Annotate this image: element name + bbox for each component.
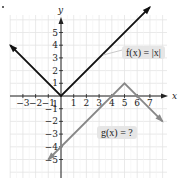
g-label-box: g(x) = ? (97, 126, 137, 139)
axes: xy−3−2−1123456754321−1−2−3−4−51 (10, 5, 177, 178)
y-tick-label: 4 (52, 40, 58, 50)
svg-text:1: 1 (52, 99, 58, 109)
y-axis-label: y (57, 5, 64, 15)
x-tick-label: 4 (109, 98, 115, 108)
f-label-box: f(x) = |x| (122, 46, 165, 59)
y-tick-label: 1 (52, 78, 58, 88)
x-axis-label: x (172, 91, 177, 101)
coordinate-plane: xy−3−2−1123456754321−1−2−3−4−51 (0, 0, 179, 182)
y-tick-label: 5 (52, 28, 58, 38)
x-tick-label: 2 (84, 98, 90, 108)
x-tick-label: −2 (29, 98, 42, 108)
y-tick-label: 3 (52, 53, 58, 63)
y-tick-label: −3 (45, 129, 59, 139)
y-tick-label: −2 (45, 116, 58, 126)
x-tick-label: 1 (71, 98, 77, 108)
x-tick-label: 5 (122, 98, 128, 108)
x-tick-label: −3 (16, 98, 30, 108)
y-tick-label: 2 (52, 66, 58, 76)
